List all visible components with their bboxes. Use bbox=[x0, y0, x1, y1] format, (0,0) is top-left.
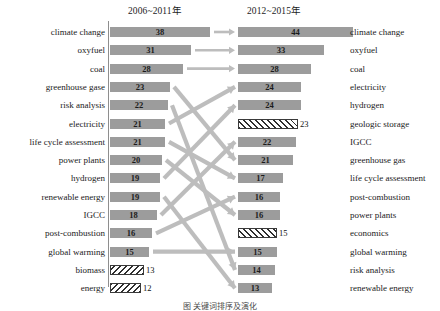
bar-left bbox=[110, 265, 144, 275]
bar-value-right: 24 bbox=[238, 100, 301, 110]
row-label-left: life cycle assessment bbox=[30, 137, 105, 148]
table-row: power plants2021greenhouse gas bbox=[0, 155, 440, 173]
table-row: climate change3844climate change bbox=[0, 27, 440, 45]
bar-value-left: 18 bbox=[110, 210, 157, 220]
row-label-right: electricity bbox=[350, 82, 386, 93]
bar-value-left: 16 bbox=[110, 228, 152, 238]
table-row: coal2828coal bbox=[0, 64, 440, 82]
bar-value-left: 21 bbox=[110, 137, 165, 147]
row-label-left: hydrogen bbox=[71, 173, 105, 184]
bar-value-left: 38 bbox=[110, 27, 210, 37]
figure-caption: 图 关键词排序及演化 bbox=[0, 300, 440, 311]
table-row: global warming1515global warming bbox=[0, 247, 440, 265]
bar-value-left: 15 bbox=[110, 247, 149, 257]
bar-left bbox=[110, 283, 141, 293]
bar-value-left: 23 bbox=[110, 82, 170, 92]
bar-value-right: 33 bbox=[238, 45, 324, 55]
row-label-left: oxyfuel bbox=[78, 45, 106, 56]
bar-value-left: 20 bbox=[110, 155, 162, 165]
table-row: hydrogen1917life cycle assessment bbox=[0, 173, 440, 191]
row-label-left: renewable energy bbox=[41, 192, 105, 203]
bar-value-right: 24 bbox=[238, 82, 301, 92]
bar-value-right: 16 bbox=[238, 210, 280, 220]
bar-value-left: 22 bbox=[110, 100, 168, 110]
row-label-right: global warming bbox=[350, 247, 407, 258]
bar-value-right: 21 bbox=[238, 155, 293, 165]
bar-value-left: 21 bbox=[110, 119, 165, 129]
row-label-right: greenhouse gas bbox=[350, 155, 405, 166]
row-label-left: IGCC bbox=[83, 210, 105, 221]
bar-value-left: 19 bbox=[110, 173, 160, 183]
row-label-right: hydrogen bbox=[350, 100, 384, 111]
row-label-right: oxyfuel bbox=[350, 45, 378, 56]
table-row: IGCC1816power plants bbox=[0, 210, 440, 228]
row-label-left: power plants bbox=[59, 155, 105, 166]
row-label-right: IGCC bbox=[350, 137, 372, 148]
bar-value-right: 44 bbox=[238, 27, 353, 37]
table-row: life cycle assessment2122IGCC bbox=[0, 137, 440, 155]
row-label-right: renewable energy bbox=[350, 283, 414, 294]
row-label-right: geologic storage bbox=[350, 119, 409, 130]
row-label-right: life cycle assessment bbox=[350, 173, 425, 184]
bar-value-right: 14 bbox=[238, 265, 275, 275]
bar-value-right: 13 bbox=[238, 283, 272, 293]
bar-value-right: 17 bbox=[238, 173, 283, 183]
bar-value-left: 13 bbox=[146, 265, 155, 275]
row-label-right: climate change bbox=[350, 27, 404, 38]
bar-value-right: 22 bbox=[238, 137, 296, 147]
table-row: greenhouse gase2324electricity bbox=[0, 82, 440, 100]
row-label-right: post-combustion bbox=[350, 192, 410, 203]
table-row: post-combustion1615economics bbox=[0, 228, 440, 246]
bar-value-right: 15 bbox=[279, 228, 288, 238]
bar-value-left: 19 bbox=[110, 192, 160, 202]
table-row: electricity2123geologic storage bbox=[0, 119, 440, 137]
row-label-left: climate change bbox=[51, 27, 105, 38]
row-label-right: coal bbox=[350, 64, 365, 75]
row-label-right: risk analysis bbox=[350, 265, 395, 276]
row-label-left: electricity bbox=[69, 119, 105, 130]
row-label-left: risk analysis bbox=[60, 100, 105, 111]
bar-value-left: 31 bbox=[110, 45, 191, 55]
bar-value-right: 28 bbox=[238, 64, 311, 74]
row-label-left: biomass bbox=[75, 265, 105, 276]
row-label-right: power plants bbox=[350, 210, 396, 221]
row-label-left: greenhouse gase bbox=[46, 82, 105, 93]
row-label-left: energy bbox=[81, 283, 105, 294]
table-row: risk analysis2224hydrogen bbox=[0, 100, 440, 118]
row-label-left: global warming bbox=[48, 247, 105, 258]
bar-value-right: 16 bbox=[238, 192, 280, 202]
row-label-left: post-combustion bbox=[45, 228, 105, 239]
table-row: oxyfuel3133oxyfuel bbox=[0, 45, 440, 63]
row-label-left: coal bbox=[90, 64, 105, 75]
table-row: energy1213renewable energy bbox=[0, 283, 440, 301]
bar-value-right: 15 bbox=[238, 247, 277, 257]
row-label-right: economics bbox=[350, 228, 389, 239]
bar-right bbox=[238, 119, 298, 129]
table-row: renewable energy1916post-combustion bbox=[0, 192, 440, 210]
table-row: biomass1314risk analysis bbox=[0, 265, 440, 283]
bar-value-right: 23 bbox=[300, 119, 309, 129]
bar-right bbox=[238, 228, 277, 238]
bar-value-left: 12 bbox=[143, 283, 152, 293]
bar-value-left: 28 bbox=[110, 64, 183, 74]
